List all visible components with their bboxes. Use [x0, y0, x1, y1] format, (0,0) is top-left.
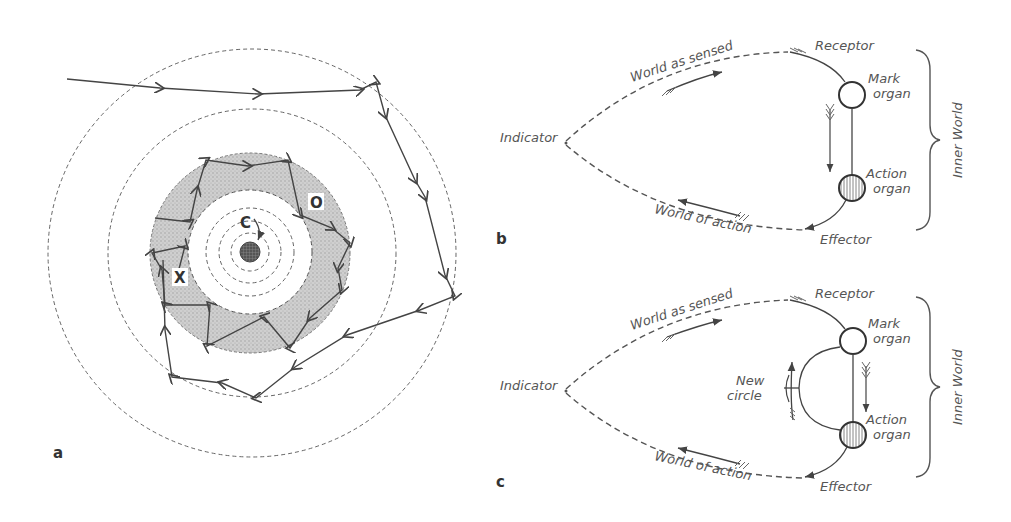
- label-o: O: [310, 194, 323, 212]
- inner-world-brace-c: [916, 297, 940, 477]
- new-circle-up-arrow: [791, 362, 793, 420]
- label-c: C: [240, 214, 251, 232]
- indicator-point: [565, 142, 568, 145]
- receptor-line-c: [790, 300, 845, 329]
- mark-organ-circle: [839, 82, 865, 108]
- label-receptor: Receptor: [815, 38, 875, 53]
- label-effector: Effector: [820, 232, 873, 247]
- receptor-line: [790, 52, 845, 82]
- indicator-point-c: [565, 390, 568, 393]
- center-dot: [240, 242, 260, 262]
- label-indicator-c: Indicator: [500, 378, 559, 393]
- label-effector-c: Effector: [820, 479, 873, 494]
- label-new-circle-2: circle: [727, 388, 762, 403]
- label-world-action-c: World of action: [653, 448, 753, 483]
- label-indicator: Indicator: [500, 130, 559, 145]
- figure-canvas: C O X a Receptor Mark organ Action organ: [0, 0, 1011, 522]
- label-action-2: organ: [873, 181, 911, 196]
- panel-c: Receptor Mark organ Action organ New cir…: [496, 285, 965, 494]
- label-action-1-c: Action: [865, 412, 907, 427]
- label-mark-1: Mark: [868, 71, 901, 86]
- label-action-2-c: organ: [873, 427, 911, 442]
- label-action-1: Action: [865, 166, 907, 181]
- label-mark-2: organ: [873, 86, 911, 101]
- label-new-circle-1: New: [736, 373, 765, 388]
- panel-letter-c: c: [496, 473, 505, 491]
- label-inner-world: Inner World: [950, 101, 965, 178]
- label-receptor-c: Receptor: [815, 286, 875, 301]
- panel-b: Receptor Mark organ Action organ Effecto…: [496, 37, 965, 248]
- label-world-sensed: World as sensed: [628, 37, 735, 85]
- mark-organ-circle-c: [840, 328, 866, 354]
- new-circle-arc: [799, 347, 840, 430]
- new-circle-feather-icon: [790, 408, 795, 420]
- effector-line-c: [805, 447, 847, 477]
- action-organ-circle: [839, 175, 865, 201]
- panel-a: C O X a: [48, 49, 456, 462]
- label-mark-2-c: organ: [873, 331, 911, 346]
- effector-line: [805, 200, 846, 229]
- label-inner-world-c: Inner World: [950, 348, 965, 425]
- label-x: X: [174, 269, 186, 287]
- panel-letter-b: b: [496, 230, 507, 248]
- inner-world-brace: [916, 50, 940, 230]
- label-mark-1-c: Mark: [868, 316, 901, 331]
- action-organ-circle-c: [840, 422, 866, 448]
- panel-letter-a: a: [53, 444, 63, 462]
